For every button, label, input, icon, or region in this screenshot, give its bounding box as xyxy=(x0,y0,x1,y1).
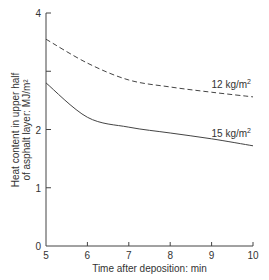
x-tick-label: 5 xyxy=(43,250,49,261)
series-label-15kg: 15 kg/m2 xyxy=(212,127,252,139)
series-labels: 12 kg/m215 kg/m2 xyxy=(212,78,252,139)
x-tick-label: 10 xyxy=(247,250,259,261)
y-axis-label-line1: Heat content in upper half xyxy=(10,73,21,188)
y-tick-label: 2 xyxy=(35,125,41,136)
x-axis-label: Time after deposition: min xyxy=(92,263,207,274)
series-label-12kg: 12 kg/m2 xyxy=(212,78,252,90)
x-tick-label: 8 xyxy=(167,250,173,261)
y-ticks: 0124 xyxy=(35,8,51,252)
x-tick-label: 6 xyxy=(85,250,91,261)
x-ticks: 5678910 xyxy=(43,242,259,261)
y-tick-label: 0 xyxy=(35,241,41,252)
heat-content-chart: 0124 5678910 12 kg/m215 kg/m2 Time after… xyxy=(0,0,269,280)
x-tick-label: 9 xyxy=(209,250,215,261)
y-tick-label: 1 xyxy=(35,183,41,194)
x-tick-label: 7 xyxy=(126,250,132,261)
y-tick-label: 4 xyxy=(35,8,41,19)
y-axis-label-line2: of asphalt layer: MJ/m² xyxy=(21,79,32,181)
